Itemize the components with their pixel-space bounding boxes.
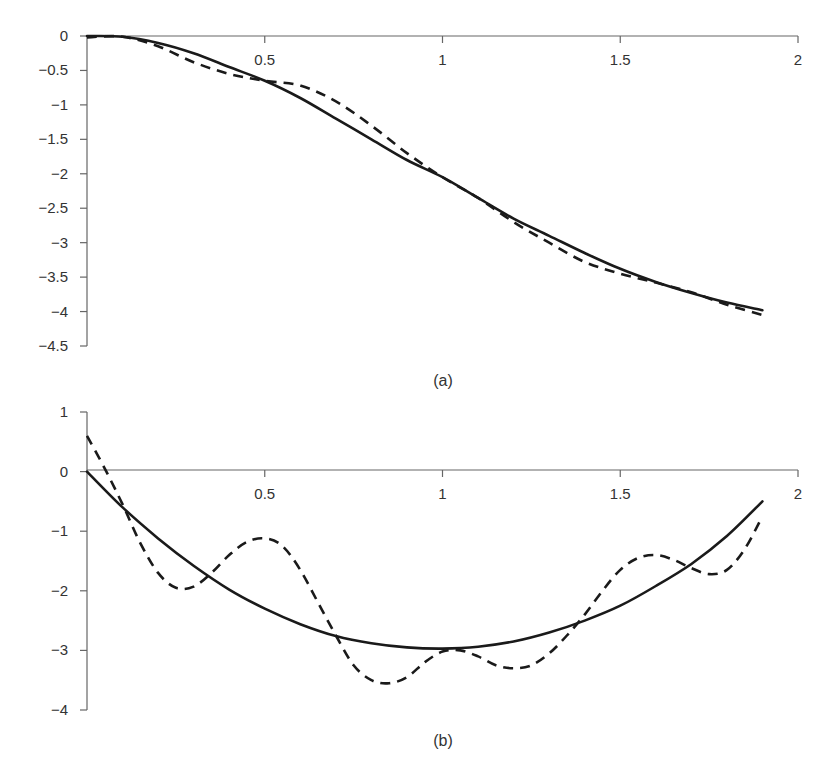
y-tick-label: −1.5 bbox=[38, 130, 68, 147]
y-tick-label: −4 bbox=[51, 303, 68, 320]
y-tick-label: −2 bbox=[51, 582, 68, 599]
y-tick-label: 0 bbox=[60, 27, 68, 44]
y-tick-label: −3.5 bbox=[38, 268, 68, 285]
chart-b: 10−1−2−3−40.511.52(b) bbox=[51, 403, 802, 749]
y-tick-label: −2 bbox=[51, 165, 68, 182]
x-tick-label: 2 bbox=[794, 51, 802, 68]
x-tick-label: 2 bbox=[794, 485, 802, 502]
x-tick-label: 1 bbox=[438, 485, 446, 502]
y-tick-label: −4 bbox=[51, 701, 68, 718]
x-tick-label: 0.5 bbox=[254, 51, 275, 68]
y-tick-label: 0 bbox=[60, 463, 68, 480]
y-tick-label: 1 bbox=[60, 403, 68, 420]
series-dashed-line bbox=[87, 436, 762, 684]
x-tick-label: 0.5 bbox=[254, 485, 275, 502]
x-tick-label: 1 bbox=[438, 51, 446, 68]
chart-caption: (b) bbox=[433, 732, 453, 749]
series-solid-line bbox=[87, 36, 762, 310]
y-tick-label: −0.5 bbox=[38, 61, 68, 78]
y-tick-label: −1 bbox=[51, 522, 68, 539]
y-tick-label: −3 bbox=[51, 234, 68, 251]
y-tick-label: −1 bbox=[51, 96, 68, 113]
series-dashed-line bbox=[87, 36, 762, 315]
x-tick-label: 1.5 bbox=[610, 51, 631, 68]
chart-a: 0−0.5−1−1.5−2−2.5−3−3.5−4−4.50.511.52(a) bbox=[38, 27, 802, 389]
x-tick-label: 1.5 bbox=[610, 485, 631, 502]
series-solid-line bbox=[87, 472, 762, 649]
y-tick-label: −4.5 bbox=[38, 337, 68, 354]
y-tick-label: −2.5 bbox=[38, 199, 68, 216]
y-tick-label: −3 bbox=[51, 641, 68, 658]
figure-canvas: 0−0.5−1−1.5−2−2.5−3−3.5−4−4.50.511.52(a)… bbox=[0, 0, 835, 776]
chart-caption: (a) bbox=[433, 372, 453, 389]
